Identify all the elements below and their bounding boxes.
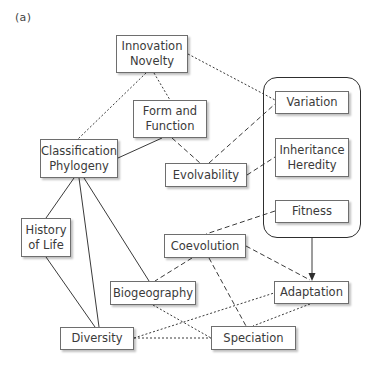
edge-coevolution-adaptation	[246, 246, 310, 280]
node-label-line1: Adaptation	[280, 285, 343, 300]
node-biogeography: Biogeography	[110, 281, 196, 305]
node-coevolution: Coevolution	[164, 234, 246, 258]
node-history-of-life: History of Life	[21, 218, 71, 257]
node-variation: Variation	[275, 91, 349, 114]
node-label-line1: Coevolution	[171, 239, 240, 254]
node-label-line1: Speciation	[223, 331, 283, 346]
node-adaptation: Adaptation	[274, 281, 349, 304]
node-label-line1: Innovation	[122, 39, 183, 54]
edge-coevolution-speciation	[209, 258, 246, 326]
node-label-line2: Novelty	[130, 54, 174, 69]
node-classification-phylogeny: Classification Phylogeny	[40, 139, 118, 178]
node-label-line1: Inheritance	[279, 143, 344, 158]
edge-adaptation-speciation	[253, 304, 310, 326]
node-label-line1: Classification	[41, 144, 117, 159]
edge-history-diversity	[46, 257, 95, 327]
edge-biogeography-speciation	[153, 305, 211, 338]
node-label-line1: Diversity	[71, 331, 122, 346]
node-fitness: Fitness	[275, 200, 349, 223]
node-label-line2: Heredity	[287, 158, 336, 173]
node-inheritance-heredity: Inheritance Heredity	[275, 138, 349, 177]
node-diversity: Diversity	[60, 327, 134, 350]
arrowhead-icon	[309, 273, 316, 281]
node-label-line2: of Life	[28, 238, 63, 253]
node-label-line1: Variation	[286, 95, 337, 110]
node-innovation-novelty: Innovation Novelty	[116, 35, 188, 73]
edge-classification-history	[46, 178, 74, 218]
node-form-and-function: Form and Function	[133, 100, 207, 138]
node-label-line1: Biogeography	[113, 286, 193, 301]
edge-innovation-form-function	[154, 73, 170, 100]
edge-coevolution-biogeography	[155, 258, 192, 281]
concept-map-diagram: (a)	[0, 0, 377, 370]
edge-form-function-evolvability	[172, 138, 200, 163]
node-label-line1: Evolvability	[173, 168, 239, 183]
node-label-line1: Form and	[143, 104, 197, 119]
edge-innovation-variation	[188, 54, 275, 100]
node-label-line2: Phylogeny	[49, 159, 109, 174]
edge-classification-diversity	[79, 178, 99, 327]
node-label-line2: Function	[146, 119, 195, 134]
node-label-line1: History	[26, 223, 67, 238]
edge-classification-biogeography	[84, 178, 149, 281]
node-speciation: Speciation	[211, 326, 296, 350]
edge-classification-form-function	[118, 138, 162, 158]
node-label-line1: Fitness	[292, 204, 332, 219]
node-evolvability: Evolvability	[165, 163, 247, 187]
